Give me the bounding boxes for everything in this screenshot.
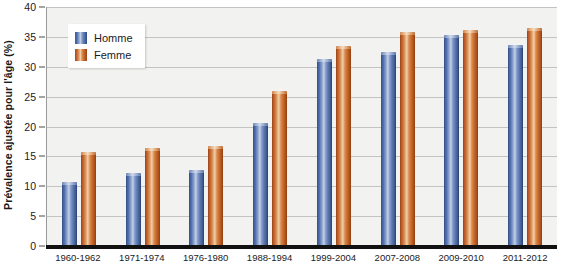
- y-axis-tick-label: 10: [24, 180, 36, 192]
- bar-homme: [189, 170, 204, 246]
- y-axis-tick-mark: [39, 126, 45, 127]
- x-axis-tick-label: 2009-2010: [429, 252, 493, 272]
- x-axis-tick-label: 1971-1974: [110, 252, 174, 272]
- y-axis-tick-label: 40: [24, 1, 36, 13]
- y-axis-tick-mark: [39, 156, 45, 157]
- y-axis-tick-mark: [39, 66, 45, 67]
- y-axis-tick-label: 5: [30, 210, 36, 222]
- bar-femme: [527, 28, 542, 246]
- y-axis-tick-label: 20: [24, 121, 36, 133]
- bar-homme: [253, 123, 268, 246]
- y-axis-title-text: Prévalence ajustée pour l'âge (%): [2, 40, 14, 210]
- bar-group: [238, 7, 302, 246]
- x-axis-tick-label: 1976-1980: [174, 252, 238, 272]
- bar-femme: [145, 148, 160, 246]
- bar-group: [366, 7, 430, 246]
- y-axis-tick-mark: [39, 246, 45, 247]
- y-axis-tick-mark: [39, 7, 45, 8]
- bar-homme: [317, 59, 332, 246]
- x-axis-tick-label: 2011-2012: [493, 252, 557, 272]
- bar-femme: [81, 152, 96, 246]
- bar-femme: [336, 46, 351, 246]
- chart-legend: HommeFemme: [68, 24, 145, 68]
- bar-homme: [381, 52, 396, 246]
- bar-homme: [444, 35, 459, 247]
- y-axis-tick-label: 25: [24, 91, 36, 103]
- bar-chart: Prévalence ajustée pour l'âge (%) 051015…: [0, 0, 562, 274]
- bar-group: [493, 7, 557, 246]
- x-axis-line: [46, 245, 557, 249]
- y-axis-tick-mark: [39, 96, 45, 97]
- bar-homme: [508, 45, 523, 246]
- y-axis-tick-label: 35: [24, 31, 36, 43]
- y-axis-tick-mark: [39, 216, 45, 217]
- legend-item: Homme: [75, 29, 133, 46]
- bar-femme: [272, 91, 287, 246]
- x-axis-tick-labels: 1960-19621971-19741976-19801988-19941999…: [46, 252, 557, 272]
- x-axis-tick-label: 1999-2004: [302, 252, 366, 272]
- y-axis-tick-labels: 0510152025303540: [16, 7, 38, 246]
- y-axis-tick-mark: [39, 36, 45, 37]
- bar-femme: [400, 32, 415, 246]
- legend-item-label: Homme: [94, 32, 133, 44]
- legend-item-label: Femme: [94, 49, 131, 61]
- x-axis-tick-label: 2007-2008: [365, 252, 429, 272]
- bar-femme: [463, 30, 478, 246]
- bar-homme: [126, 173, 141, 246]
- bar-group: [430, 7, 494, 246]
- y-axis-tick-label: 15: [24, 150, 36, 162]
- y-axis-title: Prévalence ajustée pour l'âge (%): [0, 0, 16, 250]
- x-axis-tick-label: 1988-1994: [238, 252, 302, 272]
- bar-homme: [62, 182, 77, 246]
- bar-femme: [208, 146, 223, 246]
- legend-item: Femme: [75, 46, 133, 63]
- x-axis-tick-label: 1960-1962: [46, 252, 110, 272]
- y-axis-tick-label: 0: [30, 240, 36, 252]
- y-axis-tick-mark: [39, 186, 45, 187]
- bar-group: [302, 7, 366, 246]
- femme-swatch-icon: [75, 49, 87, 61]
- y-axis-tick-label: 30: [24, 61, 36, 73]
- homme-swatch-icon: [75, 32, 87, 44]
- bar-group: [175, 7, 239, 246]
